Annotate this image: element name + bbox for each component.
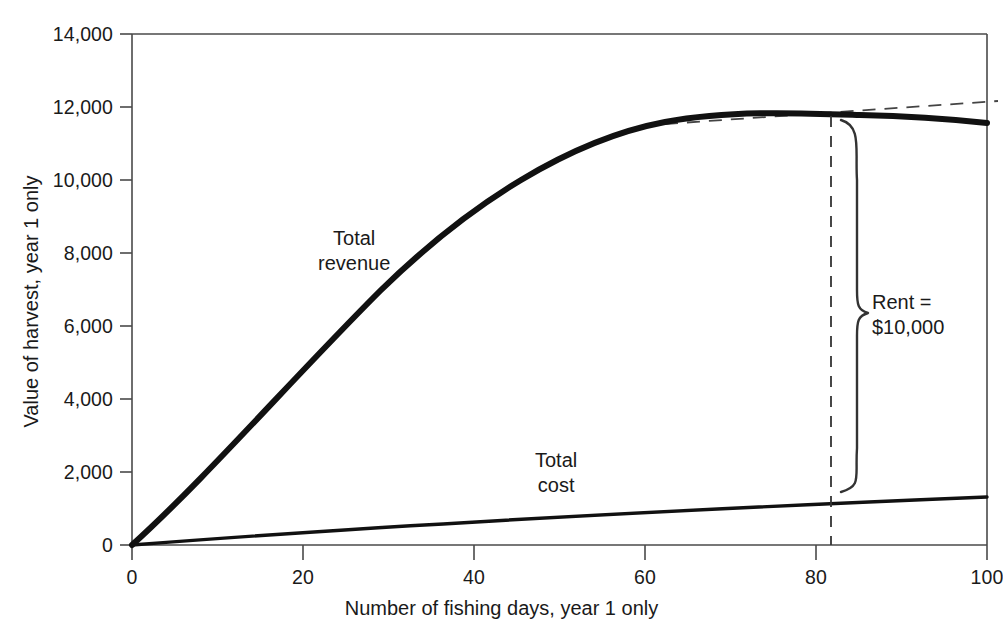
x-tick-label-0: 0 [127,566,138,589]
y-tick-label-10000: 10,000 [0,169,113,192]
series-label-total-revenue-line2: revenue [318,251,390,276]
x-tick-label-20: 20 [292,566,314,589]
y-axis-ticks [120,34,132,545]
series-label-total-revenue-line1: Total [318,226,390,251]
series-label-total-revenue: Total revenue [318,226,390,276]
x-tick-label-60: 60 [634,566,656,589]
series-label-total-cost-line2: cost [535,473,577,498]
series-label-total-cost-line1: Total [535,448,577,473]
x-tick-label-100: 100 [971,566,1003,589]
x-axis-title: Number of fishing days, year 1 only [0,597,1003,620]
y-tick-label-0: 0 [0,534,113,557]
x-tick-label-80: 80 [805,566,827,589]
y-tick-label-6000: 6,000 [0,315,113,338]
y-tick-label-12000: 12,000 [0,96,113,119]
x-axis-ticks [132,545,987,560]
annotation-label-rent-line2: $10,000 [872,315,944,340]
chart-figure: 14,000 12,000 10,000 8,000 6,000 4,000 2… [0,0,1003,636]
y-tick-label-4000: 4,000 [0,388,113,411]
y-tick-label-8000: 8,000 [0,242,113,265]
series-label-total-cost: Total cost [535,448,577,498]
plot-area [0,0,1003,636]
annotation-label-rent-line1: Rent = [872,290,944,315]
annotation-label-rent: Rent = $10,000 [872,290,944,340]
total-cost-line [132,497,987,545]
rent-brace [841,120,868,492]
x-tick-label-40: 40 [463,566,485,589]
y-tick-label-2000: 2,000 [0,461,113,484]
y-axis-title: Value of harvest, year 1 only [20,137,43,467]
y-tick-label-14000: 14,000 [0,23,113,46]
